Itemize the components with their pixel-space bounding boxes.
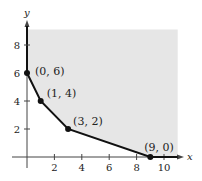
x-axis-arrow-icon bbox=[177, 155, 184, 160]
x-tick-label: 6 bbox=[106, 162, 112, 173]
vertex-point bbox=[65, 126, 71, 132]
y-axis-arrow-icon bbox=[25, 20, 30, 27]
chart-canvas: 2468102468 (0, 6)(1, 4)(3, 2)(9, 0) x y bbox=[0, 0, 202, 181]
x-tick-label: 4 bbox=[79, 162, 85, 173]
y-tick-label: 6 bbox=[14, 68, 20, 79]
x-tick-label: 2 bbox=[51, 162, 57, 173]
x-axis-label: x bbox=[187, 151, 193, 162]
y-tick-label: 2 bbox=[14, 124, 20, 135]
y-tick-label: 4 bbox=[14, 96, 20, 107]
y-tick-label: 8 bbox=[14, 40, 20, 51]
x-tick-label: 8 bbox=[133, 162, 139, 173]
vertex-label: (3, 2) bbox=[73, 115, 103, 128]
vertex-point bbox=[147, 154, 153, 160]
y-axis-label: y bbox=[23, 7, 30, 18]
vertex-label: (0, 6) bbox=[35, 65, 65, 78]
vertex-point bbox=[24, 70, 30, 76]
vertex-point bbox=[38, 98, 44, 104]
feasible-region-chart: 2468102468 (0, 6)(1, 4)(3, 2)(9, 0) x y bbox=[0, 0, 202, 181]
vertex-label: (9, 0) bbox=[144, 141, 174, 154]
vertex-label: (1, 4) bbox=[47, 87, 77, 100]
x-tick-label: 10 bbox=[158, 162, 171, 173]
